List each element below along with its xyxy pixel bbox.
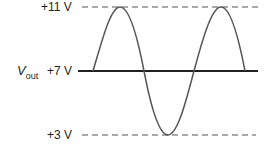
vout-subscript: out <box>26 71 39 81</box>
label-plus-7v: +7 V <box>47 65 72 77</box>
label-plus-11v: +11 V <box>41 1 72 13</box>
waveform-diagram <box>0 0 273 155</box>
label-plus-3v: +3 V <box>47 129 72 141</box>
vout-main: V <box>17 63 26 78</box>
vout-label: Vout <box>17 64 38 83</box>
